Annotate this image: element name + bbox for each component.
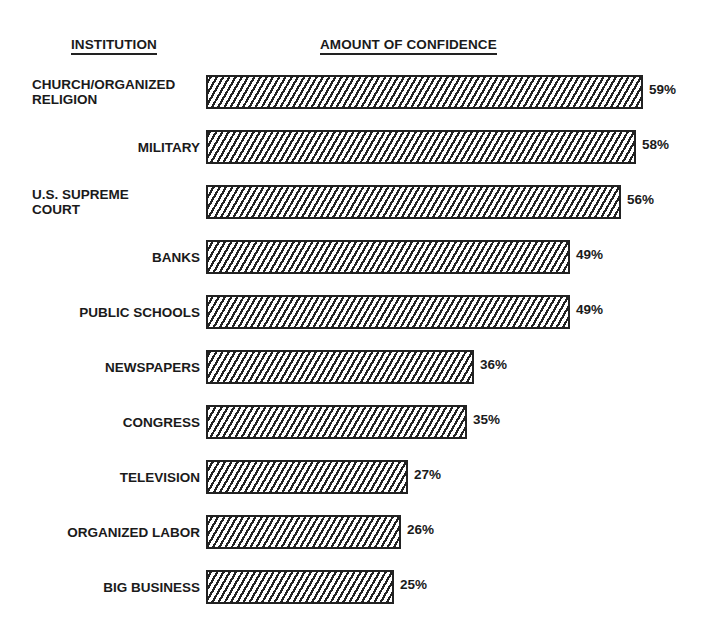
bar-row: NEWSPAPERS36% [0,350,717,384]
bar-label: BANKS [152,240,200,274]
bar-label: ORGANIZED LABOR [67,515,200,549]
bar-label: MILITARY [138,130,200,164]
bar-row: MILITARY58% [0,130,717,164]
bar-value-label: 26% [407,522,434,537]
column-header-amount: AMOUNT OF CONFIDENCE [320,37,497,55]
bar-value-label: 35% [473,412,500,427]
bar [206,240,570,274]
bar-label: NEWSPAPERS [105,350,200,384]
bar-row: TELEVISION27% [0,460,717,494]
bar-row: ORGANIZED LABOR26% [0,515,717,549]
bar-value-label: 36% [480,357,507,372]
bar-row: BANKS49% [0,240,717,274]
bar-value-label: 49% [576,302,603,317]
bar-label: CONGRESS [123,405,200,439]
bar [206,185,621,219]
bar-row: CHURCH/ORGANIZEDRELIGION59% [0,75,717,109]
bar-row: U.S. SUPREMECOURT56% [0,185,717,219]
bar [206,350,474,384]
bar-row: PUBLIC SCHOOLS49% [0,295,717,329]
bar [206,295,570,329]
bar [206,130,636,164]
bar-label: BIG BUSINESS [103,570,200,604]
bar [206,570,394,604]
bar [206,515,401,549]
bar-label: TELEVISION [120,460,200,494]
bar-value-label: 58% [642,137,669,152]
bar [206,75,643,109]
bar-value-label: 25% [400,577,427,592]
bar-label: CHURCH/ORGANIZEDRELIGION [32,75,175,109]
bar-value-label: 27% [414,467,441,482]
bar-value-label: 59% [649,82,676,97]
bar-label: U.S. SUPREMECOURT [32,185,129,219]
bar-row: BIG BUSINESS25% [0,570,717,604]
bar [206,460,408,494]
bar-value-label: 49% [576,247,603,262]
bar [206,405,467,439]
bar-row: CONGRESS35% [0,405,717,439]
bar-value-label: 56% [627,192,654,207]
bar-label: PUBLIC SCHOOLS [79,295,200,329]
column-header-institution: INSTITUTION [71,37,157,55]
